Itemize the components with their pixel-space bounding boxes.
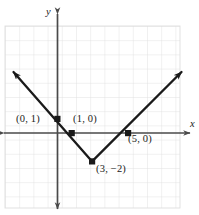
point-marker-1-0 [69,130,75,136]
point-label-5-0: (5, 0) [128,133,152,144]
point-marker-3-neg2 [89,158,95,164]
point-label-3-neg2: (3, −2) [96,163,126,174]
graph-figure: y x (0, 1) (1, 0) (3, −2) (5, 0) [0,0,199,215]
point-label-1-0: (1, 0) [73,113,97,124]
x-axis-label: x [190,118,195,129]
point-marker-0-1 [54,116,60,122]
point-label-0-1: (0, 1) [16,113,40,124]
y-axis-label: y [46,6,51,17]
coordinate-plane [0,0,199,215]
